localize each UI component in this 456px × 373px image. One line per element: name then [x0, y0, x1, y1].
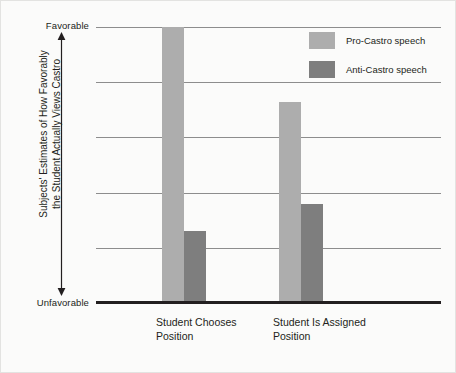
y-axis-unfavorable-label: Unfavorable	[9, 297, 89, 308]
category-0-line-2: Position	[156, 329, 237, 343]
x-axis-baseline	[96, 301, 441, 304]
y-axis-title: Subjects' Estimates of How Favorably the…	[37, 0, 63, 269]
legend-label-pro-castro: Pro-Castro speech	[346, 35, 425, 46]
legend-item-anti-castro: Anti-Castro speech	[309, 58, 449, 80]
legend: Pro-Castro speech Anti-Castro speech	[309, 29, 449, 87]
x-axis-category-label-0: Student Chooses Position	[156, 315, 237, 343]
legend-label-anti-castro: Anti-Castro speech	[346, 64, 427, 75]
category-1-line-1: Student Is Assigned	[273, 315, 366, 329]
gridline-20	[96, 248, 441, 249]
gridline-60	[96, 137, 441, 138]
bar-anti-castro-1	[301, 204, 323, 303]
y-axis-title-line-1: Subjects' Estimates of How Favorably	[37, 0, 50, 269]
legend-item-pro-castro: Pro-Castro speech	[309, 29, 449, 51]
legend-swatch-anti-castro	[309, 61, 335, 78]
bar-anti-castro-0	[184, 231, 206, 303]
y-axis-title-line-2: the Student Actually Views Castro	[50, 0, 63, 269]
x-axis-category-label-1: Student Is Assigned Position	[273, 315, 366, 343]
category-1-line-2: Position	[273, 329, 366, 343]
legend-swatch-pro-castro	[309, 32, 335, 49]
gridline-100	[96, 27, 441, 28]
bar-chart-figure: Favorable Unfavorable Subjects' Estimate…	[0, 0, 456, 373]
category-0-line-1: Student Chooses	[156, 315, 237, 329]
bar-pro-castro-0	[162, 27, 184, 303]
gridline-40	[96, 193, 441, 194]
bar-pro-castro-1	[279, 102, 301, 303]
